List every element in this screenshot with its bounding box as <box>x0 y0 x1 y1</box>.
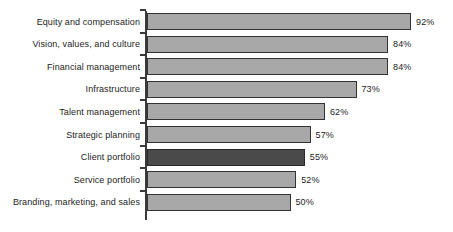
category-label: Vision, values, and culture <box>32 39 140 50</box>
bar-row: Strategic planning57% <box>0 126 453 143</box>
bar <box>147 194 291 211</box>
bar <box>147 58 388 75</box>
category-label: Talent management <box>59 106 140 117</box>
value-label: 92% <box>416 16 434 27</box>
bar <box>147 36 388 53</box>
category-label: Equity and compensation <box>37 16 140 27</box>
bar-row: Equity and compensation92% <box>0 13 453 30</box>
value-label: 52% <box>301 174 319 185</box>
value-label: 84% <box>393 39 411 50</box>
axis-tick <box>140 145 146 147</box>
bar-chart: Equity and compensation92%Vision, values… <box>0 0 453 232</box>
axis-tick <box>140 99 146 101</box>
axis-tick <box>140 122 146 124</box>
category-label: Financial management <box>47 61 140 72</box>
bar <box>147 81 357 98</box>
axis-tick <box>140 190 146 192</box>
bar <box>147 103 325 120</box>
bar-row: Client portfolio55% <box>0 149 453 166</box>
bar <box>147 13 411 30</box>
value-label: 55% <box>310 152 328 163</box>
bar-row: Financial management84% <box>0 58 453 75</box>
axis-tick <box>140 77 146 79</box>
value-label: 50% <box>296 197 314 208</box>
category-label: Service portfolio <box>74 174 140 185</box>
bar-row: Service portfolio52% <box>0 171 453 188</box>
bar-row: Talent management62% <box>0 103 453 120</box>
value-label: 62% <box>330 106 348 117</box>
value-label: 57% <box>316 129 334 140</box>
category-label: Strategic planning <box>66 129 140 140</box>
bar-row: Branding, marketing, and sales50% <box>0 194 453 211</box>
value-label: 73% <box>362 84 380 95</box>
plot-area: Equity and compensation92%Vision, values… <box>0 0 453 232</box>
axis-tick <box>140 167 146 169</box>
bar <box>147 126 311 143</box>
bar-row: Vision, values, and culture84% <box>0 36 453 53</box>
category-label: Client portfolio <box>81 152 140 163</box>
axis-tick <box>140 9 146 11</box>
axis-tick <box>140 32 146 34</box>
bar <box>147 171 296 188</box>
axis-tick <box>140 54 146 56</box>
category-label: Branding, marketing, and sales <box>13 197 140 208</box>
value-label: 84% <box>393 61 411 72</box>
bar-row: Infrastructure73% <box>0 81 453 98</box>
bar-highlighted <box>147 149 305 166</box>
category-label: Infrastructure <box>86 84 140 95</box>
